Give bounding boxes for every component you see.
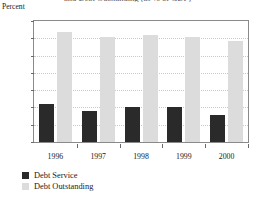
legend-item-debt-outstanding: Debt Outstanding: [22, 181, 93, 192]
y-axis-tick: [31, 21, 34, 22]
chart-title: and Debt Outstanding (as % of GDP): [0, 0, 255, 2]
chart-title-clipped: and Debt Outstanding (as % of GDP): [0, 0, 255, 2]
x-axis-label-2000: 2000: [205, 152, 249, 161]
bar-debt-outstanding-1999: [185, 37, 200, 142]
x-axis-tick: [248, 144, 249, 148]
x-axis-label-1998: 1998: [119, 152, 163, 161]
legend-item-debt-service: Debt Service: [22, 170, 93, 181]
bar-debt-service-1999: [167, 107, 182, 142]
bar-debt-service-1998: [125, 107, 140, 142]
x-axis-label-1997: 1997: [76, 152, 120, 161]
legend-label-debt-outstanding: Debt Outstanding: [34, 182, 93, 192]
legend-swatch-icon-debt-service: [22, 172, 29, 179]
y-axis-unit-label: Percent: [2, 3, 25, 11]
x-axis-label-1996: 1996: [33, 152, 77, 161]
y-axis-tick: [31, 56, 34, 57]
plot-inner: 010203040506070: [34, 21, 248, 142]
y-axis-tick: [31, 125, 34, 126]
bar-debt-service-1996: [39, 104, 54, 142]
bar-debt-outstanding-1998: [143, 35, 158, 142]
y-axis-tick: [31, 73, 34, 74]
bar-debt-outstanding-1997: [100, 37, 115, 142]
legend-swatch-icon-debt-outstanding: [22, 183, 29, 190]
y-axis-tick: [31, 107, 34, 108]
x-axis-label-1999: 1999: [162, 152, 206, 161]
x-axis-tick: [77, 144, 78, 148]
bar-debt-service-1997: [82, 111, 97, 142]
y-axis-tick: [31, 142, 34, 143]
bar-debt-outstanding-1996: [57, 32, 72, 142]
chart-legend: Debt Service Debt Outstanding: [22, 170, 93, 192]
x-axis-tick: [205, 144, 206, 148]
legend-label-debt-service: Debt Service: [34, 171, 78, 181]
x-axis-tick: [162, 144, 163, 148]
plot-area: 010203040506070: [33, 20, 249, 143]
x-axis-tick: [120, 144, 121, 148]
bar-debt-outstanding-2000: [228, 41, 243, 142]
chart-container: and Debt Outstanding (as % of GDP) Perce…: [0, 0, 255, 199]
bar-debt-service-2000: [210, 115, 225, 142]
y-axis-tick: [31, 90, 34, 91]
y-axis-tick: [31, 38, 34, 39]
